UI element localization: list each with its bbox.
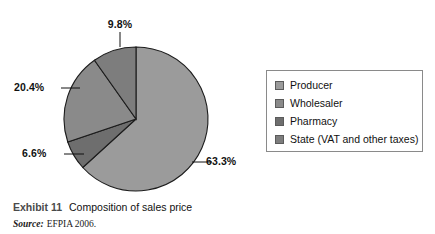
slice-label-wholesaler: 20.4% bbox=[14, 81, 44, 93]
source-note: Source:EFPIA 2006. bbox=[13, 219, 96, 229]
slice-label-state: 9.8% bbox=[92, 18, 148, 30]
legend-swatch-state bbox=[275, 135, 284, 144]
exhibit-number: Exhibit 11 bbox=[13, 201, 62, 213]
legend-label-wholesaler: Wholesaler bbox=[290, 98, 343, 109]
legend-item-producer[interactable]: Producer bbox=[275, 77, 422, 94]
exhibit-figure: 9.8% 20.4% 6.6% 63.3% Producer Wholesale… bbox=[0, 0, 435, 234]
legend-item-wholesaler[interactable]: Wholesaler bbox=[275, 95, 422, 112]
source-label: Source: bbox=[13, 219, 44, 229]
legend-swatch-pharmacy bbox=[275, 117, 284, 126]
legend-item-pharmacy[interactable]: Pharmacy bbox=[275, 113, 422, 130]
legend-label-producer: Producer bbox=[290, 80, 333, 91]
exhibit-title: Composition of sales price bbox=[69, 201, 192, 213]
chart-legend: Producer Wholesaler Pharmacy State (VAT … bbox=[266, 70, 423, 152]
pie-chart: 9.8% 20.4% 6.6% 63.3% bbox=[0, 0, 262, 205]
slice-label-pharmacy: 6.6% bbox=[22, 147, 46, 159]
exhibit-caption: Exhibit 11Composition of sales price bbox=[13, 201, 273, 213]
legend-label-pharmacy: Pharmacy bbox=[290, 116, 337, 127]
legend-swatch-wholesaler bbox=[275, 99, 284, 108]
legend-item-state[interactable]: State (VAT and other taxes) bbox=[275, 131, 422, 148]
source-value: EFPIA 2006. bbox=[47, 219, 97, 229]
legend-swatch-producer bbox=[275, 81, 284, 90]
legend-label-state: State (VAT and other taxes) bbox=[290, 134, 418, 145]
slice-label-producer: 63.3% bbox=[206, 155, 236, 167]
pie-chart-svg bbox=[0, 0, 262, 205]
